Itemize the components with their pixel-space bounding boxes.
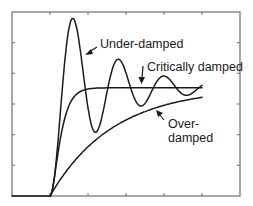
overdamped-curve xyxy=(50,97,202,196)
critically-damped-annotation: Critically damped xyxy=(139,60,243,84)
overdamped-label-line1: Over- xyxy=(168,117,199,131)
arrow-icon xyxy=(142,66,143,78)
underdamped-label: Under-damped xyxy=(100,37,183,51)
overdamped-label-line2: damped xyxy=(168,131,213,145)
arrow-head-icon xyxy=(139,77,146,84)
arrow-head-icon xyxy=(156,110,163,117)
step-response-chart: Under-damped Critically damped Over- dam… xyxy=(0,0,253,206)
critically-damped-label: Critically damped xyxy=(147,60,243,74)
underdamped-annotation: Under-damped xyxy=(85,37,183,55)
overdamped-annotation: Over- damped xyxy=(156,110,213,145)
arrow-icon xyxy=(160,115,164,120)
